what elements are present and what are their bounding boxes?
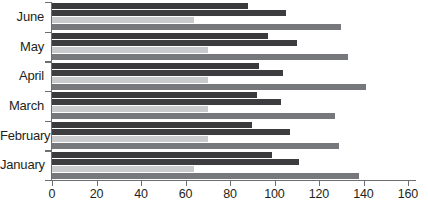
y-axis-label-january: January xyxy=(0,158,44,172)
bar-group-march xyxy=(52,91,408,121)
bar-march-series-2 xyxy=(52,99,281,105)
bar-group-june xyxy=(52,2,408,32)
x-axis-tick-80 xyxy=(230,180,231,186)
x-axis-line xyxy=(51,180,416,181)
bar-june-series-3 xyxy=(52,17,194,23)
y-axis-label-april: April xyxy=(0,69,44,83)
bar-march-series-4 xyxy=(52,113,335,119)
x-axis-tick-label-60: 60 xyxy=(179,187,193,201)
x-axis-tick-120 xyxy=(319,180,320,186)
y-axis-label-march: March xyxy=(0,99,44,113)
y-axis-label-february: February xyxy=(0,129,44,143)
bar-february-series-4 xyxy=(52,143,339,149)
bar-june-series-4 xyxy=(52,24,341,30)
y-axis-tick xyxy=(45,32,52,33)
x-axis-tick-label-160: 160 xyxy=(398,187,418,201)
x-axis-tick-label-100: 100 xyxy=(264,187,284,201)
bar-february-series-2 xyxy=(52,129,290,135)
bar-april-series-2 xyxy=(52,70,283,76)
x-axis-tick-100 xyxy=(275,180,276,186)
bar-group-april xyxy=(52,61,408,91)
x-axis-tick-140 xyxy=(364,180,365,186)
bar-february-series-3 xyxy=(52,136,208,142)
bar-march-series-1 xyxy=(52,92,257,98)
bar-february-series-1 xyxy=(52,122,252,128)
y-axis-tick xyxy=(45,180,52,181)
x-axis-tick-20 xyxy=(97,180,98,186)
x-axis-tick-label-0: 0 xyxy=(49,187,56,201)
x-axis-tick-40 xyxy=(141,180,142,186)
x-axis-tick-label-80: 80 xyxy=(223,187,237,201)
x-axis-tick-60 xyxy=(186,180,187,186)
bar-chart: JuneMayAprilMarchFebruaryJanuary 0204060… xyxy=(0,0,428,209)
bar-may-series-4 xyxy=(52,54,348,60)
bar-may-series-3 xyxy=(52,47,208,53)
y-axis-tick xyxy=(45,61,52,62)
bar-january-series-1 xyxy=(52,152,272,158)
bar-june-series-2 xyxy=(52,10,286,16)
y-axis-tick xyxy=(45,2,52,3)
bar-january-series-4 xyxy=(52,173,359,179)
y-axis-label-may: May xyxy=(0,40,44,54)
bar-group-january xyxy=(52,150,408,180)
bar-april-series-3 xyxy=(52,77,208,83)
bar-group-february xyxy=(52,121,408,151)
y-axis-tick xyxy=(45,150,52,151)
bar-march-series-3 xyxy=(52,106,208,112)
x-axis-tick-label-120: 120 xyxy=(309,187,329,201)
y-axis-label-june: June xyxy=(0,10,44,24)
x-axis-tick-label-40: 40 xyxy=(134,187,148,201)
bar-april-series-1 xyxy=(52,63,259,69)
bar-group-may xyxy=(52,32,408,62)
x-axis-tick-160 xyxy=(408,180,409,186)
bar-may-series-2 xyxy=(52,40,297,46)
plot-area xyxy=(52,2,408,180)
bar-april-series-4 xyxy=(52,84,366,90)
y-axis-tick xyxy=(45,121,52,122)
x-axis-tick-0 xyxy=(52,180,53,186)
y-axis-tick xyxy=(45,91,52,92)
bar-june-series-1 xyxy=(52,3,248,9)
x-axis-tick-label-20: 20 xyxy=(90,187,104,201)
bar-may-series-1 xyxy=(52,33,268,39)
bar-january-series-3 xyxy=(52,166,194,172)
bar-january-series-2 xyxy=(52,159,299,165)
x-axis-tick-label-140: 140 xyxy=(353,187,373,201)
